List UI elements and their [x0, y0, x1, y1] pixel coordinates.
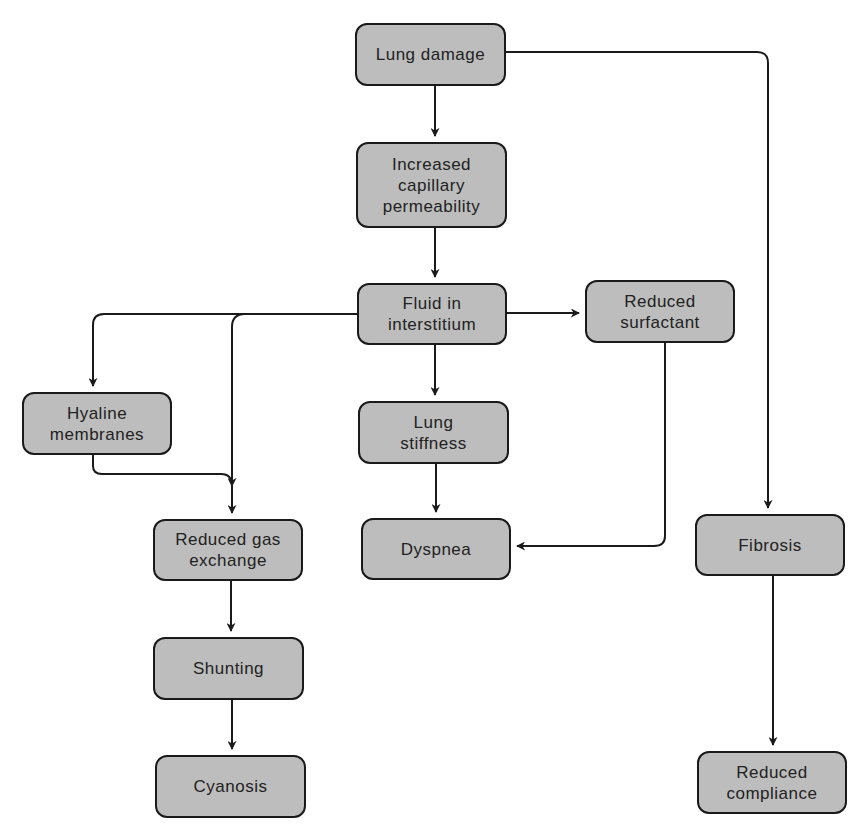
node-dyspnea: Dyspnea — [361, 518, 511, 580]
node-hyaline: Hyaline membranes — [22, 392, 172, 455]
node-gas-exchange: Reduced gas exchange — [153, 519, 303, 581]
node-surfactant: Reduced surfactant — [585, 280, 735, 343]
node-cyanosis: Cyanosis — [155, 755, 306, 818]
arrow-fluid-to-hyaline — [93, 314, 357, 386]
node-fibrosis: Fibrosis — [695, 514, 845, 576]
arrow-surfactant-to-dyspnea — [517, 343, 665, 546]
node-fluid: Fluid in interstitium — [357, 283, 507, 345]
node-lung-damage: Lung damage — [355, 23, 506, 86]
flowchart-diagram: Lung damageIncreased capillary permeabil… — [0, 0, 863, 830]
node-shunting: Shunting — [153, 637, 304, 700]
node-stiffness: Lung stiffness — [358, 401, 509, 464]
node-cap-perm: Increased capillary permeability — [356, 142, 507, 228]
arrow-hyaline-to-gas-exchange — [93, 455, 232, 486]
node-compliance: Reduced compliance — [697, 751, 847, 814]
arrow-fluid-to-gas-exchange — [232, 314, 245, 513]
